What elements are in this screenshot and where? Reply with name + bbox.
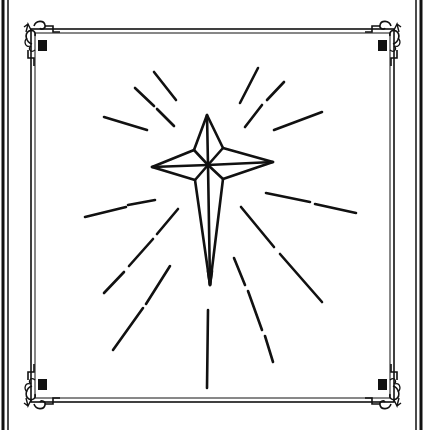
ray-segment [241,207,274,247]
ray-segment [234,258,245,285]
ray-segment [129,239,153,266]
ray-segment [267,82,284,100]
corner-ornament-top-right [365,21,401,66]
star-icon [152,115,273,285]
ray-segment [113,308,143,350]
inner-frame [31,29,394,402]
ray-segment [240,68,258,103]
star-facet-line [208,165,223,179]
ray-segment [104,272,124,293]
star-illustration [0,0,425,430]
star-outline [152,115,273,285]
star-facet-line [207,115,208,165]
light-rays [85,68,356,388]
ray-segment [274,112,322,130]
corner-ornaments [24,21,401,408]
star-facet-line [195,165,208,180]
ray-segment [157,109,174,126]
star-facet-line [194,150,208,165]
ray-segment [266,193,310,202]
ray-segment [207,310,208,388]
ray-segment [135,88,154,106]
ray-segment [128,200,155,205]
ray-segment [265,336,273,362]
ray-segment [315,204,356,213]
ray-segment [245,105,262,127]
ray-segment [104,117,147,130]
star-facet-line [208,148,223,165]
star-bottom-tip [208,271,212,285]
corner-ornament-top-left [24,21,60,66]
ray-segment [157,209,178,234]
ray-segment [248,291,262,330]
ray-segment [85,207,126,217]
ray-segment [146,266,170,304]
star-facet-line [152,165,208,167]
ray-segment [154,72,176,100]
outer-border [3,0,421,430]
illustration-canvas [0,0,425,430]
ray-segment [280,254,322,302]
